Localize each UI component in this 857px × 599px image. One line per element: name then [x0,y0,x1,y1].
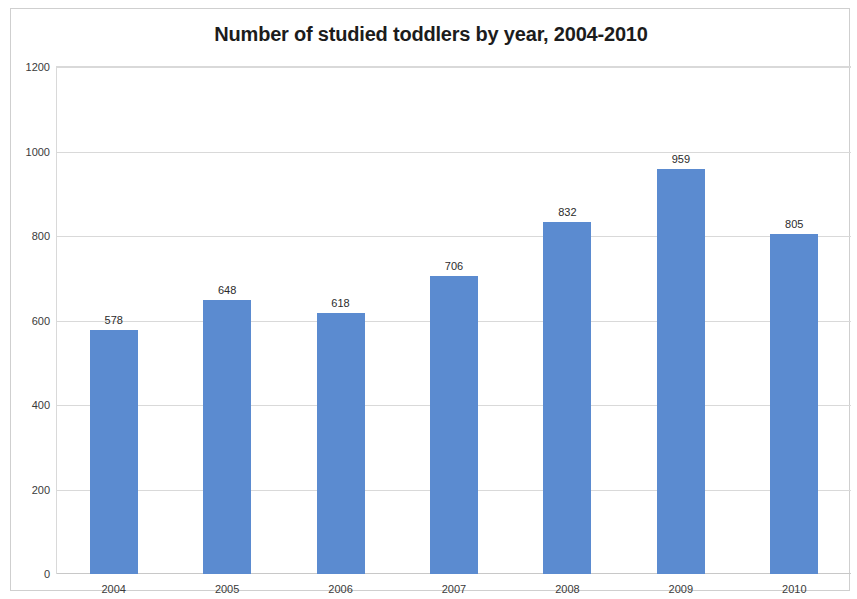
bar-group: 8052010 [738,67,851,574]
bar [770,234,818,574]
x-axis-tick-label: 2005 [215,583,239,595]
bar [203,300,251,574]
y-axis-tick-label: 1000 [26,146,50,158]
bar-group: 7062007 [397,67,510,574]
y-axis-tick-label: 400 [32,399,50,411]
bar-value-label: 832 [558,206,576,218]
bar-value-label: 805 [785,218,803,230]
bar [543,222,591,574]
x-axis-tick-label: 2009 [669,583,693,595]
bar-group: 6482005 [170,67,283,574]
x-axis-tick-label: 2006 [328,583,352,595]
bar-value-label: 618 [331,297,349,309]
bar-group: 9592009 [624,67,737,574]
bar [430,276,478,574]
bar [317,313,365,574]
bar-value-label: 706 [445,260,463,272]
bar-value-label: 959 [672,153,690,165]
bar-group: 8322008 [511,67,624,574]
x-axis-tick-label: 2010 [782,583,806,595]
bar-value-label: 648 [218,284,236,296]
chart-frame: Number of studied toddlers by year, 2004… [10,8,850,591]
bar [657,169,705,574]
x-axis-tick-label: 2007 [442,583,466,595]
chart-title: Number of studied toddlers by year, 2004… [11,23,851,46]
y-axis-tick-label: 600 [32,315,50,327]
x-axis-tick-label: 2004 [101,583,125,595]
y-axis-tick-label: 1200 [26,61,50,73]
bar-value-label: 578 [105,314,123,326]
bar-group: 5782004 [57,67,170,574]
y-axis-tick-label: 200 [32,484,50,496]
y-axis-tick-label: 800 [32,230,50,242]
x-axis-tick-label: 2008 [555,583,579,595]
y-axis-tick-label: 0 [44,568,50,580]
bar-group: 6182006 [284,67,397,574]
bar [90,330,138,574]
plot-area: 020040060080010001200 578200464820056182… [56,66,851,574]
